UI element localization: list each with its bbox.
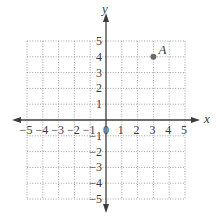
x-tick-label: 3 xyxy=(149,123,155,137)
points: A xyxy=(150,42,166,60)
y-axis-down-arrow-icon xyxy=(103,204,109,213)
y-tick-label: 2 xyxy=(96,81,102,95)
x-tick-label: 4 xyxy=(165,123,171,137)
x-axis-label: x xyxy=(203,111,210,126)
y-tick-label: 4 xyxy=(96,50,102,64)
y-tick-label: −2 xyxy=(89,145,102,159)
y-tick-label: 5 xyxy=(96,34,102,48)
point-label: A xyxy=(157,42,166,57)
x-axis-right-arrow-icon xyxy=(191,117,200,123)
x-tick-labels: −5−4−3−2−1012345 xyxy=(20,123,187,137)
x-tick-label: 0 xyxy=(103,123,109,137)
y-tick-label: 1 xyxy=(96,97,102,111)
coordinate-plane: x y −5−4−3−2−1012345 12345−1−2−3−4−5 A xyxy=(0,0,221,222)
x-tick-label: −3 xyxy=(51,123,64,137)
x-tick-label: −5 xyxy=(20,123,33,137)
y-tick-label: −1 xyxy=(89,129,102,143)
y-axis-label: y xyxy=(100,1,108,16)
x-tick-label: 5 xyxy=(181,123,187,137)
y-tick-label: 3 xyxy=(96,66,102,80)
y-tick-label: −4 xyxy=(89,176,102,190)
x-tick-label: −4 xyxy=(35,123,48,137)
x-tick-label: −2 xyxy=(67,123,80,137)
x-tick-label: 1 xyxy=(118,123,124,137)
x-tick-label: 2 xyxy=(134,123,140,137)
y-tick-label: −5 xyxy=(89,192,102,206)
point-marker xyxy=(150,54,156,60)
y-tick-label: −3 xyxy=(89,160,102,174)
